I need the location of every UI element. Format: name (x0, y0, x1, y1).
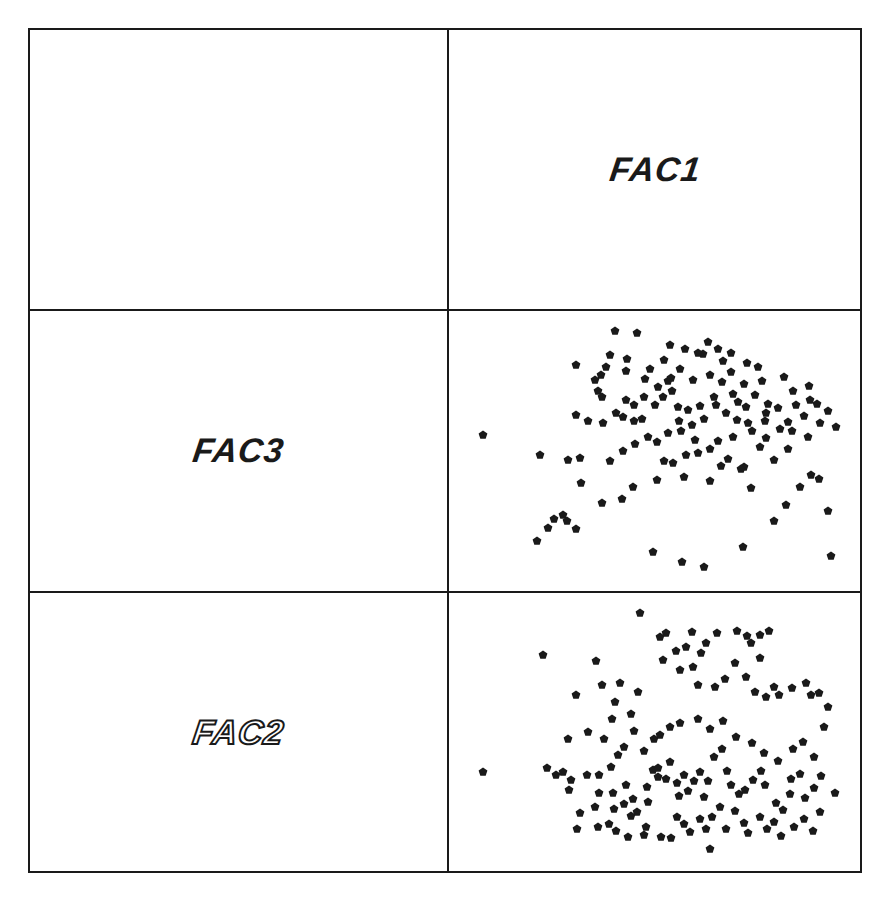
data-point (672, 646, 681, 654)
data-point (790, 822, 799, 830)
data-point (800, 411, 809, 419)
data-point (643, 782, 652, 790)
data-point (758, 376, 767, 384)
data-point (602, 362, 611, 370)
data-point (756, 630, 765, 638)
data-point (691, 435, 700, 443)
data-point (636, 608, 645, 616)
data-point (572, 690, 581, 698)
data-point (721, 674, 730, 682)
data-point (605, 819, 614, 827)
data-point (600, 734, 609, 742)
data-point (727, 348, 736, 356)
data-point (742, 672, 751, 680)
data-point (664, 428, 673, 436)
empty-cell (30, 30, 447, 309)
scatter-plot-fac1-vs-fac3 (448, 309, 864, 591)
data-point (722, 824, 731, 832)
data-point (802, 678, 811, 686)
data-point (669, 458, 678, 466)
data-point (714, 436, 723, 444)
data-point (756, 442, 765, 450)
data-point (788, 426, 797, 434)
data-point (673, 778, 682, 786)
data-point (744, 828, 753, 836)
data-point (644, 797, 653, 805)
data-point (719, 356, 728, 364)
data-point (727, 367, 736, 375)
data-point (564, 455, 573, 463)
data-point (592, 656, 601, 664)
data-point (544, 523, 553, 531)
data-point (653, 437, 662, 445)
data-point (832, 422, 841, 430)
data-point (744, 418, 753, 426)
data-point (533, 536, 542, 544)
data-point (649, 547, 658, 555)
data-point (640, 392, 649, 400)
data-point (743, 631, 752, 639)
data-point (729, 432, 738, 440)
data-point (727, 780, 736, 788)
data-point (723, 766, 732, 774)
data-point (640, 746, 649, 754)
data-point (724, 454, 733, 462)
data-point (731, 806, 740, 814)
data-point (756, 812, 765, 820)
data-point (799, 737, 808, 745)
data-point (734, 397, 743, 405)
data-point (676, 364, 685, 372)
data-point (740, 818, 749, 826)
data-point (631, 439, 640, 447)
data-point (684, 405, 693, 413)
data-point (612, 826, 621, 834)
data-point (680, 819, 689, 827)
data-point (712, 400, 721, 408)
data-point (831, 788, 840, 796)
data-point (775, 690, 784, 698)
data-point (770, 682, 779, 690)
data-point (564, 734, 573, 742)
data-point (674, 402, 683, 410)
data-point (702, 638, 711, 646)
data-point (827, 551, 836, 559)
data-point (630, 416, 639, 424)
data-point (627, 709, 636, 717)
data-point (608, 714, 617, 722)
data-point (654, 763, 663, 771)
data-point (630, 726, 639, 734)
data-point (595, 788, 604, 796)
data-point (667, 833, 676, 841)
data-point (824, 406, 833, 414)
data-point (609, 788, 618, 796)
data-point (716, 802, 725, 810)
scatterplot-matrix: FAC1 FAC3 FAC2 (28, 28, 862, 873)
data-point (654, 382, 663, 390)
data-point (700, 562, 709, 570)
data-point (706, 370, 715, 378)
data-point (697, 648, 706, 656)
data-point (762, 692, 771, 700)
data-point (659, 392, 668, 400)
data-point (761, 416, 770, 424)
data-point (792, 400, 801, 408)
data-point (572, 360, 581, 368)
data-point (536, 450, 545, 458)
data-point (761, 780, 770, 788)
data-point (722, 408, 731, 416)
data-point (618, 494, 627, 502)
data-point (708, 812, 717, 820)
data-point (815, 688, 824, 696)
data-point (598, 498, 607, 506)
data-point (717, 461, 726, 469)
data-point (751, 390, 760, 398)
data-point (662, 774, 671, 782)
data-point (805, 381, 814, 389)
data-point (824, 506, 833, 514)
data-point (789, 386, 798, 394)
data-point (622, 366, 631, 374)
data-point (784, 417, 793, 425)
data-point (659, 655, 668, 663)
data-point (675, 416, 684, 424)
data-point (667, 373, 676, 381)
